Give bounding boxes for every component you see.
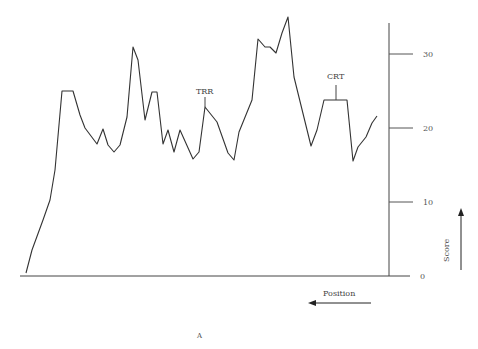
score-line-chart: 30 20 10 0 TRR CRT Score Position A bbox=[0, 0, 478, 349]
svg-text:CRT: CRT bbox=[327, 72, 345, 81]
y-ticks: 30 20 10 0 bbox=[389, 50, 433, 281]
tick-label-20: 20 bbox=[423, 124, 433, 133]
tick-label-10: 10 bbox=[423, 198, 433, 207]
position-arrow-icon bbox=[308, 300, 371, 306]
x-axis-label: Position bbox=[323, 289, 355, 298]
tick-label-30: 30 bbox=[423, 50, 433, 59]
score-series-line bbox=[26, 17, 377, 273]
y-axis-label: Score bbox=[442, 238, 451, 262]
figure-label: A bbox=[196, 332, 203, 340]
svg-text:TRR: TRR bbox=[196, 87, 214, 96]
annotation-crt: CRT bbox=[327, 72, 345, 100]
score-arrow-icon bbox=[458, 208, 464, 270]
tick-label-0: 0 bbox=[420, 272, 425, 281]
annotation-trr: TRR bbox=[196, 87, 214, 107]
